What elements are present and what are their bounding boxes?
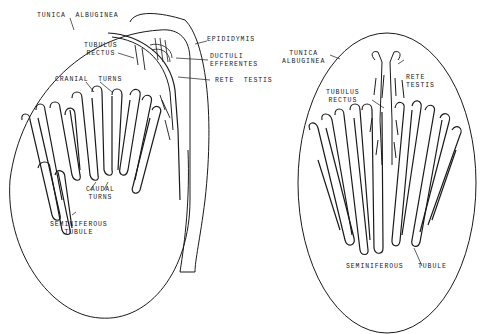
label-tunica-albuginea-left: TUNICA ALBUGINEA: [37, 12, 119, 20]
right-seminiferous-tubules: [309, 101, 461, 255]
label-tubulus-rectus-left: TUBULUSRECTUS: [84, 42, 118, 58]
left-seminiferous-tubules: [22, 86, 161, 235]
label-epididymis: EPIDIDYMIS: [207, 36, 255, 44]
label-cranial-turns: CRANIAL TURNS: [55, 76, 122, 84]
label-seminiferous-tubule-left: SEMINIFEROUSTUBULE: [50, 221, 108, 237]
label-rete-testis-left: RETE TESTIS: [215, 77, 273, 85]
label-tubulus-rectus-right: TUBULUSRECTUS: [326, 89, 360, 105]
epididymis-outline: [130, 14, 209, 273]
left-testis-outline: [10, 30, 190, 318]
label-seminiferous-tubule-right: SEMINIFEROUS TUBULE: [346, 263, 447, 271]
left-testis: [10, 14, 209, 319]
label-caudal-turns: CAUDALTURNS: [86, 186, 115, 202]
right-testis: [298, 33, 476, 333]
testis-diagram: [0, 0, 483, 334]
label-tunica-albuginea-right: TUNICAALBUGINEA: [282, 50, 325, 66]
label-rete-testis-right: RETETESTIS: [406, 74, 435, 90]
label-ductuli-efferentes: DUCTULIEFFERENTES: [210, 53, 258, 69]
rete-testis-column: [370, 52, 404, 165]
